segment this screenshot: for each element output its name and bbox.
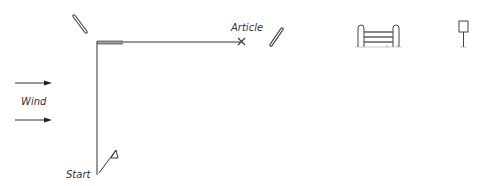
start-bar [97,41,123,44]
wind-label: Wind [21,96,47,107]
article-label: Article [230,22,263,33]
course-diagram: Article Wind Start [0,0,495,186]
start-label: Start [66,169,92,180]
gate-fence-icon [355,25,402,47]
start-flag-icon [99,150,118,173]
pole-icon-left [74,16,86,32]
sign-post-icon [459,21,468,47]
track-path [97,41,240,175]
pole-icon-right [271,29,282,45]
